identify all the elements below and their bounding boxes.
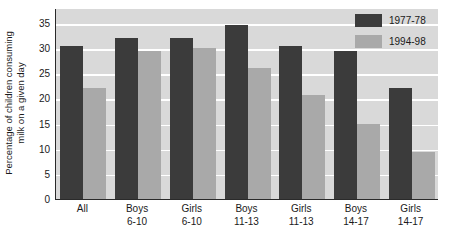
legend-label: 1977-78: [389, 15, 426, 26]
bar: [138, 51, 161, 199]
bar: [83, 88, 106, 199]
bar: [357, 124, 380, 199]
bar: [170, 38, 193, 199]
legend-item: 1977-78: [355, 12, 441, 29]
x-tick-label-line: Girls: [376, 203, 446, 216]
bar: [115, 38, 138, 199]
legend-swatch: [355, 14, 382, 27]
bar: [334, 51, 357, 199]
y-axis-title: Percentage of children consuming milk on…: [0, 0, 30, 205]
y-tick-label: 30: [28, 44, 50, 54]
y-tick-label: 25: [28, 69, 50, 79]
legend-label: 1994-98: [389, 36, 426, 47]
bar: [225, 25, 248, 199]
y-tick-label: 20: [28, 94, 50, 104]
y-tick-label: 15: [28, 120, 50, 130]
x-axis-tick-labels: AllBoys6-10Girls6-10Boys11-13Girls11-13B…: [55, 203, 438, 237]
legend-item: 1994-98: [355, 33, 441, 50]
y-tick-label: 10: [28, 145, 50, 155]
bar: [389, 88, 412, 199]
x-tick-label-line: 14-17: [376, 216, 446, 229]
bar: [279, 46, 302, 199]
legend-swatch: [355, 35, 382, 48]
bar: [412, 152, 435, 199]
bar: [193, 48, 216, 199]
bar: [60, 46, 83, 199]
y-axis-tick-labels: 05101520253035: [28, 0, 50, 237]
bar: [302, 95, 325, 199]
y-axis-title-line-1: Percentage of children consuming: [3, 31, 14, 175]
y-axis-title-line-2: milk on a given day: [15, 62, 26, 143]
y-tick-label: 5: [28, 170, 50, 180]
y-tick-label: 35: [28, 19, 50, 29]
bar: [248, 68, 271, 199]
x-tick-label: Girls14-17: [376, 203, 446, 228]
legend: 1977-781994-98: [355, 12, 441, 54]
bar-chart: Percentage of children consuming milk on…: [0, 0, 449, 237]
